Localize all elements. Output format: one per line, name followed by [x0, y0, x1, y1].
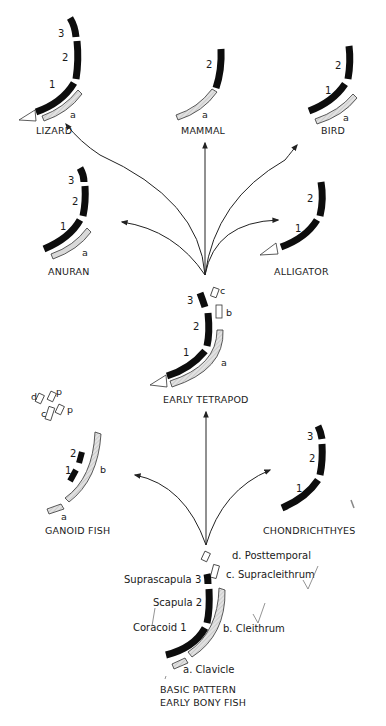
ganoid-bone-2: [79, 452, 82, 463]
mammal-title: MAMMAL: [181, 125, 226, 136]
tetrapod-bone-2: [207, 313, 209, 346]
tetrapod-title: EARLY TETRAPOD: [163, 394, 249, 405]
basic-label-1: Coracoid 1: [133, 622, 187, 633]
mammal-bone-2: [216, 49, 221, 88]
basic-title-line1: BASIC PATTERN: [160, 684, 236, 695]
basic-bone-d: [201, 551, 210, 562]
bird-label-a: a: [343, 112, 349, 123]
lizard-bone-3: [70, 18, 76, 37]
ganoid-title: GANOID FISH: [45, 525, 110, 536]
lizard-triangle: [19, 110, 36, 121]
ganoid-bone-p-lower: [55, 404, 64, 415]
basic-bone-3: [207, 574, 208, 584]
alligator-label-2: 2: [307, 193, 313, 204]
anuran-bone-3: [80, 168, 84, 182]
node-alligator: 2 1 ALLIGATOR: [260, 182, 329, 277]
chondrichthyes-title: CHONDRICHTHYES: [263, 525, 355, 536]
bird-bone-2: [348, 46, 350, 79]
handwritten-checkmarks: [253, 500, 354, 623]
arrow-to-bird: [205, 145, 297, 275]
tetrapod-label-b: b: [226, 307, 232, 318]
anuran-label-2: 2: [72, 196, 78, 207]
chondrichthyes-bone-3: [318, 426, 322, 439]
basic-label-2: Scapula 2: [153, 597, 202, 608]
anuran-label-3: 3: [68, 175, 74, 186]
ganoid-label-1: 1: [65, 465, 71, 476]
bird-label-2: 2: [335, 60, 341, 71]
bird-title: BIRD: [321, 125, 345, 136]
lizard-label-2: 2: [62, 52, 68, 63]
ganoid-label-2: 2: [70, 448, 76, 459]
alligator-triangle: [260, 243, 278, 255]
tetrapod-label-1: 1: [183, 347, 189, 358]
node-early-tetrapod: 3 2 1 c b a EARLY TETRAPOD: [150, 285, 249, 405]
tetrapod-label-c: c: [220, 285, 225, 296]
basic-bone-2: [207, 589, 209, 623]
basic-label-c: c. Supracleithrum: [226, 569, 315, 580]
bird-label-1: 1: [325, 85, 331, 96]
arrow-to-ganoid-fish: [135, 475, 206, 545]
tetrapod-label-2: 2: [193, 321, 199, 332]
alligator-title: ALLIGATOR: [274, 266, 329, 277]
tetrapod-bone-b: [216, 305, 222, 318]
checkmark-icon-cleithrum: [253, 603, 265, 623]
anuran-label-1: 1: [60, 221, 66, 232]
anuran-title: ANURAN: [48, 266, 90, 277]
node-bird: 2 1 a BIRD: [309, 46, 357, 136]
chondrichthyes-label-2: 2: [309, 453, 315, 464]
tetrapod-label-a: a: [221, 357, 227, 368]
ganoid-label-d: d: [31, 391, 37, 402]
node-mammal: 2 a MAMMAL: [176, 49, 226, 136]
basic-label-a: a. Clavicle: [183, 664, 235, 675]
ganoid-bone-c: [45, 406, 55, 420]
ganoid-label-b: b: [100, 464, 106, 475]
arrows-from-basic-pattern: [135, 412, 270, 545]
lizard-label-3: 3: [58, 28, 64, 39]
lizard-bone-2: [76, 41, 78, 79]
node-ganoid-fish: d p c p 2 1 b a GANOID FISH: [31, 386, 110, 536]
ganoid-label-c: c: [41, 408, 46, 419]
tetrapod-triangle: [150, 375, 167, 387]
anuran-bone-2: [83, 186, 85, 216]
stray-pencil-mark: [351, 500, 354, 508]
stray-mark: [165, 676, 166, 679]
ganoid-label-a: a: [61, 511, 67, 522]
mammal-bone-a: [176, 89, 217, 120]
arrow-to-chondrichthyes: [206, 470, 270, 545]
pectoral-girdle-evolution-diagram: 3 2 1 a LIZARD 2 a MAMMAL 2 1 a BIRD 3 2…: [0, 0, 386, 726]
basic-label-b: b. Cleithrum: [223, 623, 285, 634]
lizard-title: LIZARD: [36, 125, 72, 136]
arrow-to-alligator: [205, 220, 278, 275]
mammal-label-2: 2: [206, 59, 212, 70]
mammal-label-a: a: [202, 109, 208, 120]
node-lizard: 3 2 1 a LIZARD: [19, 18, 82, 136]
ganoid-label-p-lower: p: [67, 404, 73, 415]
ganoid-label-p-upper: p: [56, 386, 62, 397]
basic-label-d: d. Posttemporal: [232, 550, 311, 561]
basic-title-line2: EARLY BONY FISH: [160, 697, 246, 708]
tetrapod-bone-c: [210, 287, 219, 298]
basic-bone-c: [210, 564, 219, 578]
node-anuran: 3 2 1 a ANURAN: [44, 168, 91, 277]
tetrapod-label-3: 3: [187, 295, 193, 306]
node-chondrichthyes: 3 2 1 CHONDRICHTHYES: [263, 426, 355, 536]
chondrichthyes-label-3: 3: [307, 431, 313, 442]
chondrichthyes-label-1: 1: [296, 483, 302, 494]
alligator-label-1: 1: [295, 223, 301, 234]
lizard-label-a: a: [70, 109, 76, 120]
chondrichthyes-bone-2: [320, 444, 322, 475]
node-basic-pattern: d. Posttemporal c. Supracleithrum b. Cle…: [124, 550, 315, 708]
basic-label-3: Suprascapula 3: [124, 574, 201, 585]
tetrapod-bone-3: [200, 293, 205, 307]
anuran-label-a: a: [82, 247, 88, 258]
arrows-from-early-tetrapod: [66, 124, 297, 275]
alligator-bone-2: [320, 182, 322, 216]
lizard-label-1: 1: [49, 79, 55, 90]
